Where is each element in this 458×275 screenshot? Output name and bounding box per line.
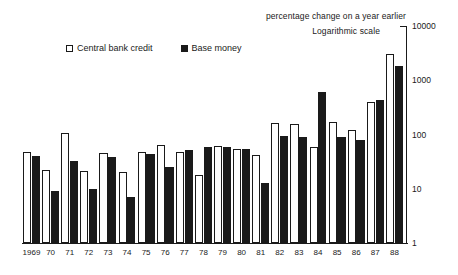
bar-central-bank-credit [271, 123, 279, 243]
x-axis-tick-label: 84 [314, 248, 323, 257]
x-axis-tick-label: 72 [84, 248, 93, 257]
y-axis-tick-label: 1 [412, 238, 417, 248]
bar-base-money [395, 66, 403, 243]
bar-central-bank-credit [61, 133, 69, 243]
bar-central-bank-credit [367, 102, 375, 243]
bar-base-money [70, 161, 78, 243]
bar-base-money [127, 197, 135, 243]
x-axis-tick-label: 81 [256, 248, 265, 257]
bar-base-money [242, 149, 250, 243]
x-axis-tick-label: 78 [199, 248, 208, 257]
bar-base-money [223, 147, 231, 243]
bar-base-money [337, 137, 345, 243]
bar-base-money [356, 140, 364, 243]
x-axis-tick-label: 77 [180, 248, 189, 257]
bar-central-bank-credit [233, 149, 241, 243]
bar-central-bank-credit [42, 170, 50, 243]
x-axis-tick-label: 75 [142, 248, 151, 257]
x-axis-tick-label: 70 [46, 248, 55, 257]
bar-base-money [376, 100, 384, 243]
x-axis-tick-label: 85 [333, 248, 342, 257]
bar-central-bank-credit [119, 172, 127, 243]
bar-central-bank-credit [348, 130, 356, 243]
bar-base-money [261, 183, 269, 243]
x-axis-tick-label: 79 [218, 248, 227, 257]
x-axis-tick-label: 71 [65, 248, 74, 257]
bar-central-bank-credit [80, 171, 88, 243]
x-axis-tick-label: 73 [103, 248, 112, 257]
bar-central-bank-credit [23, 152, 31, 243]
x-axis-tick-label: 86 [352, 248, 361, 257]
x-axis-tick-label: 74 [123, 248, 132, 257]
y-axis-tick-label: 1000 [412, 75, 431, 85]
bar-central-bank-credit [138, 152, 146, 243]
bar-central-bank-credit [329, 122, 337, 243]
chart-container: percentage change on a year earlier Loga… [0, 0, 458, 275]
bar-base-money [280, 136, 288, 243]
x-axis-tick-label: 83 [294, 248, 303, 257]
y-axis-tick-label: 10 [412, 184, 421, 194]
bar-central-bank-credit [176, 152, 184, 243]
bar-central-bank-credit [214, 146, 222, 243]
bar-central-bank-credit [252, 155, 260, 243]
bar-base-money [185, 150, 193, 243]
y-axis-tick-label: 10000 [412, 21, 436, 31]
bar-central-bank-credit [386, 54, 394, 243]
bar-central-bank-credit [310, 147, 318, 243]
y-axis-tick-label: 100 [412, 130, 426, 140]
bar-central-bank-credit [290, 124, 298, 243]
x-axis-tick-label: 82 [275, 248, 284, 257]
bar-base-money [318, 92, 326, 243]
bar-central-bank-credit [99, 153, 107, 243]
x-axis-tick-label: 76 [161, 248, 170, 257]
bar-central-bank-credit [195, 175, 203, 243]
bar-central-bank-credit [157, 145, 165, 243]
bar-base-money [204, 147, 212, 243]
bar-base-money [108, 157, 116, 243]
x-axis-tick-label: 88 [390, 248, 399, 257]
bar-base-money [299, 137, 307, 243]
x-axis-tick-label: 1969 [23, 248, 41, 257]
x-axis-tick-label: 80 [237, 248, 246, 257]
x-axis-tick-label: 87 [371, 248, 380, 257]
bar-base-money [51, 191, 59, 243]
bar-base-money [165, 167, 173, 243]
bar-base-money [32, 156, 40, 243]
y-axis-line [406, 26, 407, 244]
bar-base-money [89, 189, 97, 243]
bar-base-money [146, 154, 154, 243]
